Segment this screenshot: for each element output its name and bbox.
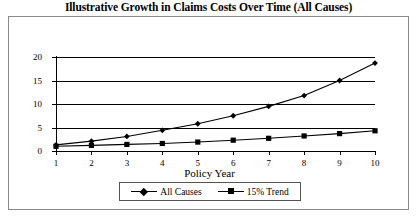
legend-item-all-causes: All Causes: [131, 187, 201, 197]
data-point-square: [231, 138, 236, 143]
legend-item-15-percent-trend: 15% Trend: [218, 187, 289, 197]
data-point-square: [195, 139, 200, 144]
x-axis-tick: [198, 151, 199, 155]
series-line-15-trend: [56, 131, 375, 147]
data-point-square: [160, 141, 165, 146]
x-axis-tick: [269, 151, 270, 155]
x-axis-tick: [340, 151, 341, 155]
y-axis-tick-label: 0: [20, 147, 42, 156]
x-axis-tick: [233, 151, 234, 155]
y-axis-tick: [52, 57, 57, 58]
gridline: [56, 128, 375, 129]
x-axis-tick: [127, 151, 128, 155]
diamond-marker-icon: [131, 187, 157, 196]
x-axis-tick: [91, 151, 92, 155]
gridline: [56, 151, 375, 152]
x-axis-tick: [162, 151, 163, 155]
y-axis-tick-label: 20: [20, 53, 42, 62]
chart-legend: All Causes 15% Trend: [119, 182, 301, 201]
x-axis-title: Policy Year: [9, 167, 410, 179]
chart-frame: 05101520 12345678910 Policy Year All Cau…: [8, 16, 409, 210]
data-point-diamond: [195, 121, 201, 127]
plot-area: [56, 57, 375, 151]
legend-label-all-causes: All Causes: [160, 187, 201, 197]
y-axis-tick: [52, 128, 57, 129]
x-axis-tick: [304, 151, 305, 155]
y-axis-tick-label: 5: [20, 124, 42, 133]
data-point-square: [53, 144, 58, 149]
y-axis-tick: [52, 104, 57, 105]
y-axis-tick-label: 10: [20, 100, 42, 109]
gridline: [56, 81, 375, 82]
data-point-square: [337, 131, 342, 136]
gridline: [56, 104, 375, 105]
chart-screenshot: Illustrative Growth in Claims Costs Over…: [0, 0, 417, 218]
data-point-square: [89, 143, 94, 148]
data-point-square: [266, 136, 271, 141]
y-axis-tick-label: 15: [20, 77, 42, 86]
x-axis-tick: [375, 151, 376, 155]
data-point-square: [124, 142, 129, 147]
page-title: Illustrative Growth in Claims Costs Over…: [0, 0, 417, 15]
data-point-diamond: [230, 113, 236, 119]
y-axis-tick: [52, 81, 57, 82]
x-axis-tick: [56, 151, 57, 155]
square-marker-icon: [218, 187, 244, 196]
data-point-diamond: [372, 60, 378, 66]
data-point-square: [302, 133, 307, 138]
legend-label-15-percent-trend: 15% Trend: [247, 187, 289, 197]
data-point-diamond: [301, 93, 307, 99]
data-point-diamond: [124, 134, 130, 140]
gridline: [56, 57, 375, 58]
